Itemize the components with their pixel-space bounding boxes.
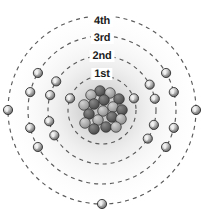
electron-shell-3 xyxy=(169,87,178,96)
electron-shell-3 xyxy=(26,87,35,96)
electron-shell-3 xyxy=(33,142,42,151)
electron-shell-2 xyxy=(52,77,61,86)
shell-label-4: 4th xyxy=(91,16,113,27)
electron-shell-4 xyxy=(3,105,12,114)
electron-shell-2 xyxy=(149,120,158,129)
shell-label-text: 4th xyxy=(91,15,113,27)
electron-shell-2 xyxy=(45,91,54,100)
shell-label-2: 2nd xyxy=(90,51,115,62)
electron-shell-4 xyxy=(191,105,200,114)
shell-label-3: 3rd xyxy=(91,33,114,44)
electron-shell-3 xyxy=(169,123,178,132)
electron-shell-2 xyxy=(45,117,54,126)
nucleus-proton xyxy=(89,99,100,110)
electron-shell-3 xyxy=(161,142,170,151)
electron-shell-2 xyxy=(150,94,159,103)
electron-shell-2 xyxy=(143,134,152,143)
nucleus-neutron xyxy=(80,118,91,129)
shell-label-text: 3rd xyxy=(91,32,114,44)
shell-label-text: 1st xyxy=(91,68,112,80)
electron-shell-3 xyxy=(26,123,35,132)
electron-shell-4 xyxy=(97,199,106,208)
nucleus-proton xyxy=(99,95,110,106)
electron-shell-2 xyxy=(50,131,59,140)
electron-shell-3 xyxy=(161,68,170,77)
shell-label-1: 1st xyxy=(91,69,112,80)
electron-shell-1 xyxy=(129,94,138,103)
bohr-model-diagram: 1st2nd3rd4th xyxy=(0,0,204,223)
nucleus-proton xyxy=(89,124,100,135)
shell-label-text: 2nd xyxy=(90,50,115,62)
electron-shell-1 xyxy=(65,94,74,103)
electron-shell-2 xyxy=(145,80,154,89)
nucleus-proton xyxy=(101,122,112,133)
electron-shell-3 xyxy=(33,68,42,77)
nucleus-neutron xyxy=(111,122,122,133)
